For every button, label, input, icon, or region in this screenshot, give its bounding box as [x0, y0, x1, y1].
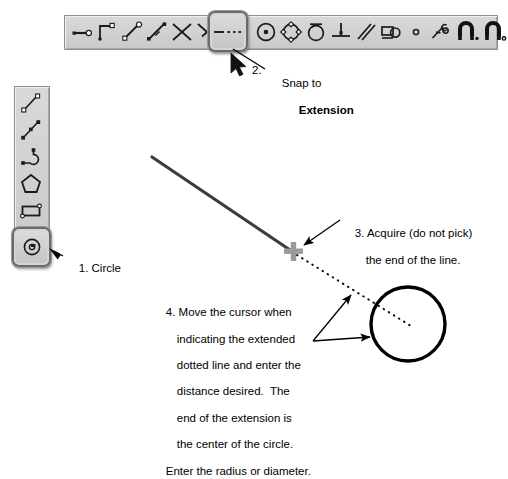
callout-step2-number: 2. [252, 64, 265, 77]
callout-step4-line7: Enter the radius or diameter. [166, 465, 311, 477]
callout-step4: 4. Move the cursor when indicating the e… [153, 293, 311, 479]
leader-step4-to-dotted [313, 295, 351, 341]
callout-step1: 1. Circle [66, 249, 121, 289]
callout-step2-number-wrap: 2. [269, 64, 282, 104]
acquire-crosshair [284, 242, 303, 261]
leader-step3 [304, 220, 340, 245]
callout-step4-line5: end of the extension is [177, 412, 292, 425]
callout-step3-line2: the end of the line. [366, 254, 461, 267]
drawn-line [152, 157, 293, 252]
leader-step1-arrowhead [49, 248, 61, 260]
callout-step2-line2: Extension [299, 104, 354, 117]
callout-step2-line1: Snap to [282, 77, 322, 89]
callout-step1-text: 1. Circle [79, 262, 121, 274]
leader-step4-to-circle [313, 337, 370, 341]
drawn-circle [371, 287, 445, 361]
callout-step4-line3: dotted line and enter the [177, 359, 301, 372]
callout-step4-line6: the center of the circle. [177, 438, 293, 451]
mouse-pointer [231, 53, 246, 76]
callout-step3: 3. Acquire (do not pick) the end of the … [342, 214, 472, 280]
callout-step3-line1: 3. Acquire (do not pick) [355, 227, 473, 239]
callout-step4-line1: 4. Move the cursor when [166, 306, 292, 318]
callout-step4-line4: distance desired. The [177, 385, 290, 398]
callout-step4-line2: indicating the extended [177, 333, 295, 346]
